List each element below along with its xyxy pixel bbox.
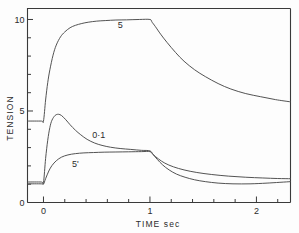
x-tick-label: 0 <box>41 206 46 216</box>
y-axis-ticks <box>28 19 34 202</box>
y-tick-label: 0 <box>19 198 24 208</box>
x-tick-label: 1 <box>147 206 152 216</box>
y-axis-tick-labels: 0510 <box>14 15 24 208</box>
x-axis-title: TIME sec <box>136 219 181 229</box>
plot-frame-border <box>28 9 291 203</box>
data-curves <box>28 19 291 184</box>
curve-annotations: 50·15' <box>72 20 123 169</box>
curve-label: 0·1 <box>92 130 105 140</box>
y-axis-title: TENSION <box>5 95 15 140</box>
curve-5prime <box>28 151 291 184</box>
y-tick-label: 10 <box>14 15 24 25</box>
tension-time-plot: 0510 012 50·15' TENSION TIME sec <box>0 0 299 233</box>
curve-0.1 <box>28 114 291 184</box>
y-tick-label: 5 <box>19 106 24 116</box>
x-axis-tick-labels: 012 <box>41 206 259 216</box>
x-tick-label: 2 <box>254 206 259 216</box>
curve-label: 5' <box>72 159 79 169</box>
curve-5 <box>28 19 291 122</box>
curve-label: 5 <box>118 20 123 30</box>
chart-figure: 0510 012 50·15' TENSION TIME sec <box>0 0 299 233</box>
plot-frame <box>28 9 291 203</box>
x-axis-ticks <box>43 197 277 203</box>
